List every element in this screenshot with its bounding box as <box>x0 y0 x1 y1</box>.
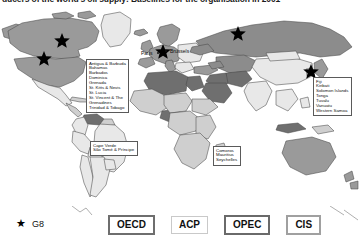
outline-antarctic-fragment <box>72 206 92 215</box>
country-indonesia-opec <box>276 123 306 133</box>
island-label-caribbean: Antigua & Barbuda Bahamas Barbados Domin… <box>86 59 129 113</box>
country-canada-arctic-b <box>78 11 96 19</box>
country-iberia <box>138 57 155 68</box>
country-japan <box>314 59 328 79</box>
country-new-zealand-b <box>350 181 358 189</box>
country-southeast-asia <box>276 89 298 111</box>
country-canada <box>8 18 99 59</box>
country-united-states <box>14 57 86 87</box>
outline-nz-fragment-a <box>330 206 344 215</box>
island-label-atlantic-africa: Cape Verde São Tomé & Príncipe <box>90 141 138 156</box>
legend-box-acp[interactable]: ACP <box>171 216 208 234</box>
country-southern-africa <box>174 133 210 169</box>
country-central-africa <box>168 111 200 135</box>
legend-box-cis[interactable]: CIS <box>286 215 321 235</box>
city-dot-paris <box>157 52 159 54</box>
country-central-america <box>66 103 82 117</box>
outline-nz-fragment-b <box>344 210 358 220</box>
country-australia <box>282 137 336 175</box>
city-label-paris: Paris <box>141 50 152 56</box>
country-greenland <box>101 12 131 47</box>
city-dot-brussels <box>165 50 167 52</box>
country-png <box>312 125 334 134</box>
country-scandinavia <box>157 24 180 47</box>
country-mongolia <box>266 51 300 61</box>
legend-box-oecd[interactable]: OECD <box>108 215 155 235</box>
city-label-brussels: Brussels <box>170 48 189 54</box>
country-paraguay-uruguay <box>104 159 116 170</box>
map-legend: ★ G8 OECD ACP OPEC CIS <box>0 206 362 243</box>
world-map-svg: .c{stroke:#4a4a4a;stroke-width:0.55;stro… <box>0 7 362 206</box>
country-china <box>252 57 314 85</box>
island-label-indian-ocean: Comoros Mauritius Seychelles <box>213 146 241 166</box>
legend-group-boxes: OECD ACP OPEC CIS <box>108 215 321 235</box>
country-russia <box>196 21 352 57</box>
country-philippines <box>300 97 310 108</box>
world-map: .c{stroke:#4a4a4a;stroke-width:0.55;stro… <box>0 7 362 206</box>
legend-label-g8: G8 <box>32 219 44 229</box>
country-balkans <box>175 62 194 73</box>
country-egypt <box>186 76 204 91</box>
legend-item-g8: ★ G8 <box>16 218 44 229</box>
country-new-zealand-a <box>344 171 354 182</box>
legend-box-opec[interactable]: OPEC <box>224 215 270 235</box>
star-icon: ★ <box>16 218 26 229</box>
caption-strip: ducers of the world's oil supply: Baseli… <box>0 0 362 7</box>
country-sahel <box>164 93 192 113</box>
caption-text: ducers of the world's oil supply: Baseli… <box>2 0 280 4</box>
country-india <box>244 81 272 111</box>
island-label-pacific: Fiji Kiribati Solomon Islands Tonga Tuva… <box>313 77 352 116</box>
country-iceland <box>134 29 148 36</box>
